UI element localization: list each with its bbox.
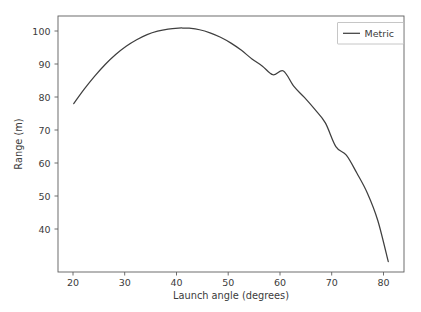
y-tick-label: 70 [38, 125, 50, 136]
x-tick-label: 40 [170, 277, 182, 288]
x-tick-label: 80 [377, 277, 389, 288]
y-tick-label: 40 [38, 224, 50, 235]
x-tick-label: 60 [274, 277, 286, 288]
y-tick-label: 50 [38, 191, 50, 202]
x-axis-tick-labels: 20 30 40 50 60 70 80 [67, 277, 390, 288]
chart-plot: 20 30 40 50 60 70 80 40 50 60 70 80 90 1… [0, 0, 421, 312]
y-tick-label: 90 [38, 59, 50, 70]
x-tick-label: 50 [222, 277, 234, 288]
x-axis-tickmarks [73, 272, 384, 276]
legend-label-metric: Metric [365, 28, 395, 39]
plot-area-background [58, 16, 404, 272]
legend: Metric [338, 23, 404, 45]
x-tick-label: 70 [326, 277, 338, 288]
x-axis-title: Launch angle (degrees) [173, 290, 289, 301]
figure-canvas: 20 30 40 50 60 70 80 40 50 60 70 80 90 1… [0, 0, 421, 312]
x-tick-label: 20 [67, 277, 79, 288]
y-axis-title: Range (m) [13, 118, 24, 169]
y-tick-label: 100 [32, 26, 50, 37]
x-tick-label: 30 [119, 277, 131, 288]
y-tick-label: 60 [38, 158, 50, 169]
y-tick-label: 80 [38, 92, 50, 103]
y-axis-tick-labels: 40 50 60 70 80 90 100 [32, 26, 50, 235]
y-axis-tickmarks [55, 31, 59, 229]
